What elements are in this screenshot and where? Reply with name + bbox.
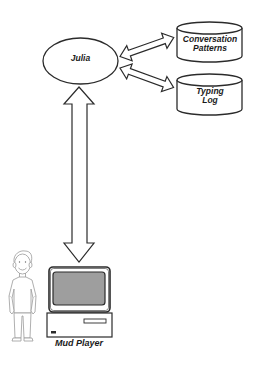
julia-label: Julia (43, 54, 118, 63)
arrow-julia-mud-player (64, 87, 94, 262)
arrow-julia-conversation-patterns (117, 30, 176, 64)
computer-icon (47, 267, 112, 337)
mud-player-label: Mud Player (44, 339, 114, 348)
conversation-patterns-label-line2: Patterns (177, 44, 243, 53)
typing-log-label: Typing Log (177, 87, 243, 105)
typing-log-label-line2: Log (177, 96, 243, 105)
diagram-canvas (0, 0, 254, 367)
person-icon (9, 251, 36, 341)
conversation-patterns-label: Conversation Patterns (177, 35, 243, 53)
screen (53, 272, 105, 305)
arrow-julia-typing-log (117, 60, 176, 95)
